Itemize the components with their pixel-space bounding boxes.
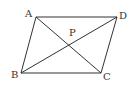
parallelogram-diagram: A D P B C bbox=[0, 0, 135, 88]
label-p: P bbox=[69, 27, 76, 38]
label-a: A bbox=[24, 8, 33, 19]
label-b: B bbox=[11, 69, 18, 80]
label-d: D bbox=[119, 10, 127, 21]
diagonal-bd bbox=[21, 17, 117, 73]
side-ba bbox=[21, 17, 36, 73]
label-c: C bbox=[103, 71, 111, 82]
